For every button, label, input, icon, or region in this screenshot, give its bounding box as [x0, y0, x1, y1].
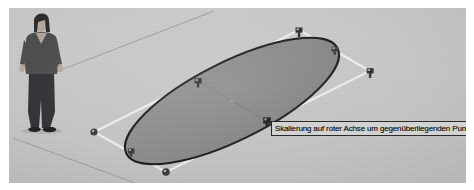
viewport-canvas[interactable]	[9, 8, 466, 183]
grip-bottom-mid[interactable]	[162, 168, 170, 176]
sketchup-viewport[interactable]: Skalierung auf roter Achse um gegenüberl…	[9, 8, 466, 183]
scale-tool-tooltip: Skalierung auf roter Achse um gegenüberl…	[271, 121, 466, 136]
figure-shadow	[22, 128, 62, 134]
scale-tool-tooltip-text: Skalierung auf roter Achse um gegenüberl…	[275, 124, 466, 133]
screenshot-root: Skalierung auf roter Achse um gegenüberl…	[0, 0, 474, 190]
figure-hand-right	[57, 64, 62, 72]
grip-bottom-left[interactable]	[90, 128, 97, 135]
figure-hand-left	[19, 64, 24, 72]
ellipse-center-point	[231, 100, 234, 103]
